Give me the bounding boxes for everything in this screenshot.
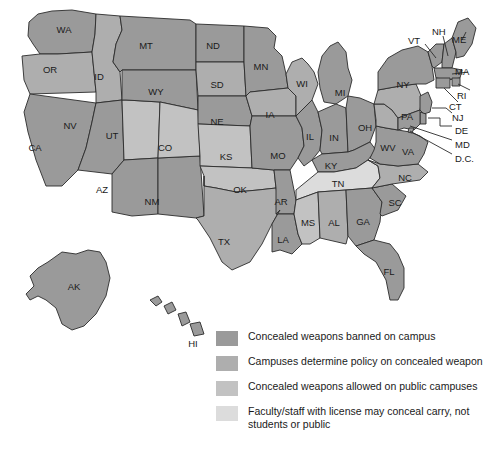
legend-label-banned: Concealed weapons banned on campus (248, 330, 435, 343)
state-label-CA: CA (28, 142, 42, 153)
state-label-NC: NC (398, 172, 412, 183)
state-HI-2[interactable] (164, 302, 176, 314)
state-FL[interactable] (356, 240, 404, 300)
state-label-TN: TN (332, 178, 345, 189)
legend-item-campus-policy[interactable]: Campuses determine policy on concealed w… (216, 355, 488, 371)
state-MT[interactable] (113, 16, 196, 72)
legend-label-faculty-staff: Faculty/staff with license may conceal c… (248, 405, 488, 431)
state-AZ[interactable] (112, 158, 158, 216)
state-label-WA: WA (57, 24, 73, 35)
leader-line-DE (428, 118, 452, 126)
state-label-D.C.: D.C. (455, 153, 474, 164)
state-HI-4[interactable] (190, 322, 204, 336)
state-NE[interactable] (198, 96, 252, 126)
state-CA[interactable] (24, 94, 96, 186)
state-ND[interactable] (196, 24, 244, 62)
state-label-PA: PA (401, 111, 414, 122)
state-label-GA: GA (356, 216, 370, 227)
legend-item-banned[interactable]: Concealed weapons banned on campus (216, 330, 488, 346)
state-label-NV: NV (63, 120, 77, 131)
state-IN[interactable] (318, 104, 348, 154)
state-label-ID: ID (94, 71, 104, 82)
state-label-LA: LA (277, 234, 289, 245)
state-DE[interactable] (420, 112, 426, 124)
state-label-ND: ND (206, 40, 220, 51)
state-NM[interactable] (158, 156, 204, 218)
state-label-NH: NH (432, 26, 446, 37)
legend-label-campus-policy: Campuses determine policy on concealed w… (248, 355, 483, 368)
state-label-VA: VA (402, 146, 415, 157)
state-OR[interactable] (22, 52, 96, 94)
state-CT[interactable] (436, 78, 450, 88)
legend-swatch-campus-policy (216, 356, 238, 371)
state-label-MO: MO (270, 150, 285, 161)
state-label-KY: KY (325, 160, 338, 171)
state-MO[interactable] (250, 116, 304, 170)
legend-swatch-allowed-public (216, 381, 238, 396)
state-label-MN: MN (254, 61, 269, 72)
state-label-WI: WI (296, 78, 308, 89)
state-label-CT: CT (449, 101, 462, 112)
state-label-CO: CO (158, 142, 172, 153)
state-label-IA: IA (266, 109, 276, 120)
state-label-HI: HI (188, 338, 198, 349)
state-label-AZ: AZ (96, 184, 108, 195)
state-label-NM: NM (145, 196, 160, 207)
state-label-KS: KS (220, 151, 233, 162)
state-UT[interactable] (122, 100, 160, 160)
state-label-FL: FL (383, 266, 394, 277)
state-label-NJ: NJ (452, 112, 464, 123)
state-label-DE: DE (455, 125, 468, 136)
legend-item-allowed-public[interactable]: Concealed weapons allowed on public camp… (216, 380, 488, 396)
state-label-OH: OH (358, 122, 372, 133)
state-label-AL: AL (328, 217, 340, 228)
state-label-AK: AK (68, 281, 81, 292)
state-label-MT: MT (139, 40, 153, 51)
state-label-SC: SC (388, 197, 401, 208)
state-label-IN: IN (329, 132, 339, 143)
state-label-IL: IL (306, 131, 314, 142)
state-label-NY: NY (396, 79, 410, 90)
legend-swatch-faculty-staff (216, 406, 238, 421)
state-AR[interactable] (274, 170, 296, 214)
state-label-VT: VT (408, 35, 420, 46)
state-label-MI: MI (335, 87, 346, 98)
state-label-MD: MD (455, 139, 470, 150)
state-label-ME: ME (452, 34, 466, 45)
us-campus-carry-map: WA OR ID CA NV UT AZ NM MT WY CO ND SD N… (0, 0, 490, 450)
state-label-NE: NE (210, 116, 223, 127)
map-legend: Concealed weapons banned on campus Campu… (216, 330, 488, 431)
state-label-RI: RI (457, 90, 467, 101)
state-label-AR: AR (274, 196, 287, 207)
state-label-MS: MS (301, 217, 315, 228)
state-HI-3[interactable] (178, 312, 190, 326)
state-VA[interactable] (370, 126, 428, 166)
state-label-WV: WV (380, 142, 396, 153)
state-label-MA: MA (455, 66, 470, 77)
state-label-TX: TX (218, 236, 231, 247)
state-label-SD: SD (210, 79, 223, 90)
legend-item-faculty-staff[interactable]: Faculty/staff with license may conceal c… (216, 405, 488, 431)
state-label-OR: OR (43, 64, 57, 75)
state-label-WY: WY (148, 86, 164, 97)
legend-label-allowed-public: Concealed weapons allowed on public camp… (248, 380, 477, 393)
state-label-UT: UT (106, 130, 119, 141)
state-NJ[interactable] (420, 92, 432, 114)
state-label-OK: OK (233, 184, 247, 195)
legend-swatch-banned (216, 331, 238, 346)
state-HI[interactable] (150, 296, 162, 306)
